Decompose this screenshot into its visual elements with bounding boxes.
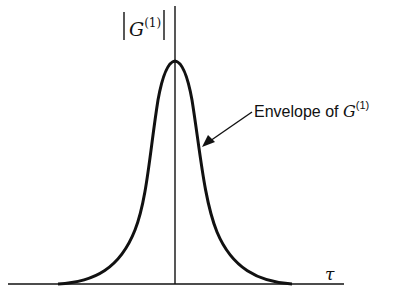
- envelope-diagram: G(1) Envelope of G(1) τ: [0, 0, 395, 302]
- annotation-arrow: [210, 112, 252, 141]
- arrowhead-icon: [202, 135, 215, 147]
- annotation-label: Envelope of G(1): [254, 99, 369, 121]
- y-axis-label: G(1): [129, 16, 161, 40]
- x-axis-label: τ: [325, 264, 335, 284]
